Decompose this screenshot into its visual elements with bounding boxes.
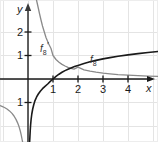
x-tick-label-2: 2 (75, 84, 81, 95)
f8-subscript: 8 (93, 60, 97, 67)
curve-label-f8-prime: f8′ (40, 41, 48, 56)
curve-label-f8: f8 (90, 55, 97, 67)
x-tick-label-1: 1 (50, 84, 56, 95)
x-tick-label-3: 3 (100, 84, 106, 95)
x-axis-label: x (146, 83, 152, 94)
y-axis-label: y (17, 4, 23, 15)
function-graph-figure: 1 2 3 4 2 1 1 y x f8′ f8 (0, 0, 158, 142)
f8-prime-subscript: 8 (43, 49, 47, 56)
y-tick-label-neg1: 1 (17, 97, 23, 108)
f8-prime-mark: ′ (47, 40, 49, 50)
y-tick-label-2: 2 (17, 27, 23, 38)
plot-canvas (0, 0, 158, 142)
y-tick-label-1: 1 (17, 50, 23, 61)
plot-background (0, 0, 158, 142)
x-tick-label-4: 4 (125, 84, 131, 95)
